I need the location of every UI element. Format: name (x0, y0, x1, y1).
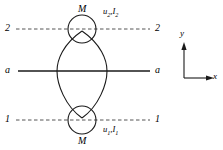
figure-canvas: M M 2 2 a a 1 1 u2,I2 u1,I1 y x (0, 0, 223, 150)
i-subscript-top: 2 (115, 12, 118, 18)
section-label-1-left: 1 (5, 114, 10, 124)
lens-left-arc (57, 31, 82, 118)
section-label-2-right: 2 (155, 23, 160, 33)
mass-label-top: M (78, 4, 86, 14)
section-label-1-right: 1 (155, 114, 160, 124)
mass-circle-top (68, 15, 96, 43)
axis-label-x: x (213, 72, 217, 81)
section-label-2-left: 2 (5, 23, 10, 33)
section-label-a-left: a (5, 65, 10, 75)
axis-label-y: y (180, 29, 184, 38)
displacement-current-label-bottom: u1,I1 (103, 125, 118, 136)
mass-label-bottom: M (78, 136, 86, 146)
i-subscript-bottom: 1 (115, 130, 118, 136)
axis-y-arrowhead (181, 42, 186, 50)
lens-right-arc (82, 31, 107, 118)
coordinate-axis-indicator (181, 42, 214, 81)
section-label-a-right: a (155, 65, 160, 75)
mass-circle-bottom (68, 106, 96, 134)
displacement-current-label-top: u2,I2 (103, 7, 118, 18)
